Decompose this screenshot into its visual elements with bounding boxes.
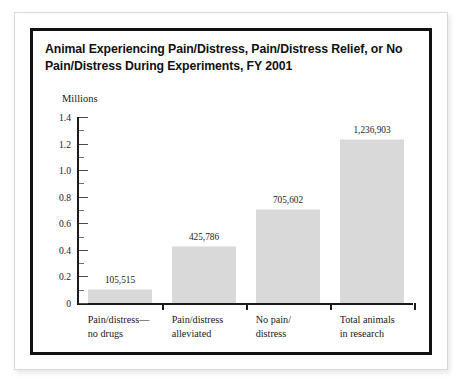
x-axis-tick [414, 303, 416, 310]
y-axis-tick-major [79, 117, 88, 118]
x-axis-category-label: Pain/distress— no drugs [88, 313, 150, 340]
bar-value-label: 1,236,903 [353, 125, 390, 135]
y-axis-tick-major [79, 303, 88, 304]
y-axis-tick-major [79, 250, 88, 251]
y-axis-tick-major [79, 170, 88, 171]
y-axis-tick-major [79, 223, 88, 224]
y-axis-tick-major [79, 144, 88, 145]
y-axis-unit-label: Millions [62, 93, 98, 104]
x-axis-tick [330, 303, 332, 310]
chart-title: Animal Experiencing Pain/Distress, Pain/… [45, 41, 415, 75]
y-axis-tick-minor [79, 130, 84, 131]
y-axis-tick-label: 0.6 [59, 218, 71, 229]
bar [256, 209, 319, 303]
y-axis-tick-major [79, 197, 88, 198]
bar-value-label: 705,602 [273, 195, 303, 205]
y-axis-tick-minor [79, 210, 84, 211]
y-axis-tick-label: 0.2 [59, 271, 71, 282]
x-axis-line [77, 303, 413, 305]
y-axis-tick-label: 1.4 [59, 112, 71, 123]
y-axis-tick-minor [79, 157, 84, 158]
y-axis-tick-minor [79, 237, 84, 238]
y-axis-tick-major [79, 276, 88, 277]
plot-area: 00.20.40.60.81.01.21.4 105,515425,786705… [78, 117, 418, 303]
y-axis-tick-label: 1.2 [59, 138, 71, 149]
bar [88, 289, 151, 303]
y-axis-tick-label: 0.8 [59, 191, 71, 202]
x-axis-tick [162, 303, 164, 310]
page-background: Animal Experiencing Pain/Distress, Pain/… [0, 0, 466, 386]
x-axis-category-label: No pain/ distress [256, 313, 291, 340]
y-axis-tick-minor [79, 183, 84, 184]
bar-value-label: 425,786 [189, 232, 219, 242]
bar-value-label: 105,515 [105, 275, 135, 285]
y-axis-tick-label: 0 [66, 298, 71, 309]
x-axis-tick [246, 303, 248, 310]
y-axis-tick-minor [79, 290, 84, 291]
x-axis-category-label: Total animals in research [340, 313, 395, 340]
bar [340, 139, 403, 303]
y-axis-tick-minor [79, 263, 84, 264]
x-axis-category-label: Pain/distress alleviated [172, 313, 224, 340]
y-axis-tick-label: 0.4 [59, 244, 71, 255]
bar [172, 246, 235, 303]
y-axis-tick-label: 1.0 [59, 165, 71, 176]
